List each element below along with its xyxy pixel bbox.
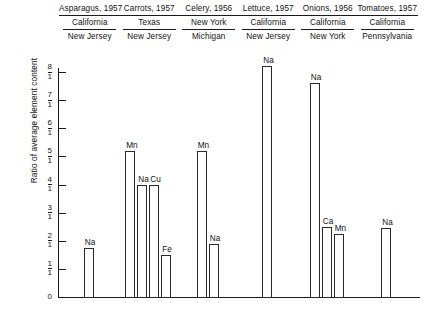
- group-header: Asparagus, 1957CaliforniaNew Jersey: [59, 4, 121, 42]
- y-tick-mark: [59, 269, 66, 270]
- figure-bar-chart: Asparagus, 1957CaliforniaNew JerseyCarro…: [0, 0, 424, 314]
- y-tick-mark: [59, 213, 66, 214]
- bar-label: Na: [382, 218, 392, 227]
- group-title: Lettuce, 1957: [238, 4, 300, 16]
- group-numerator: California: [361, 18, 414, 30]
- bar-label: Na: [85, 238, 95, 247]
- bar: [322, 227, 332, 298]
- group-numerator: California: [242, 18, 295, 30]
- group-title: Celery, 1956: [178, 4, 240, 16]
- bar: [149, 185, 159, 299]
- group-denominator: Michigan: [178, 32, 240, 42]
- bar-label: Mn: [198, 141, 209, 150]
- bar: [209, 244, 219, 298]
- y-tick-label: 71: [0, 91, 52, 109]
- bar: [381, 228, 391, 298]
- group-numerator: New York: [182, 18, 235, 30]
- y-tick-fraction: 11: [48, 260, 52, 278]
- bar: [197, 151, 207, 298]
- bar-label: Cu: [150, 175, 160, 184]
- y-tick-fraction: 61: [48, 119, 52, 137]
- bar: [161, 255, 171, 298]
- group-denominator: New Jersey: [59, 32, 121, 42]
- y-tick-fraction: 71: [48, 91, 52, 109]
- bar: [334, 234, 344, 298]
- group-title: Onions, 1956: [297, 4, 359, 16]
- y-tick-fraction: 51: [48, 147, 52, 165]
- y-tick-label: 81: [0, 63, 52, 81]
- y-axis-line: [58, 68, 59, 298]
- group-title: Tomatoes, 1957: [357, 4, 419, 16]
- bar-label: Na: [311, 73, 321, 82]
- y-tick-fraction: 81: [48, 63, 52, 81]
- bar-label: Fe: [162, 245, 172, 254]
- y-tick-label: 41: [0, 176, 52, 194]
- group-header: Lettuce, 1957CaliforniaNew Jersey: [238, 4, 300, 42]
- group-title: Asparagus, 1957: [59, 4, 121, 16]
- bar-label: Na: [263, 56, 273, 65]
- group-numerator: California: [301, 18, 354, 30]
- y-tick-mark: [59, 185, 66, 186]
- y-tick-fraction: 41: [48, 176, 52, 194]
- group-header: Tomatoes, 1957CaliforniaPennsylvania: [357, 4, 419, 42]
- bar: [310, 83, 320, 298]
- group-denominator: New Jersey: [119, 32, 181, 42]
- y-tick-label: 31: [0, 204, 52, 222]
- group-title: Carrots, 1957: [119, 4, 181, 16]
- group-numerator: Texas: [123, 18, 176, 30]
- y-tick-mark: [59, 156, 66, 157]
- bar-label: Na: [138, 175, 148, 184]
- group-header-row: Asparagus, 1957CaliforniaNew JerseyCarro…: [0, 0, 424, 52]
- group-denominator: New Jersey: [238, 32, 300, 42]
- group-header: Celery, 1956New YorkMichigan: [178, 4, 240, 42]
- y-tick-label: 0: [0, 293, 52, 301]
- y-tick-label: 21: [0, 232, 52, 250]
- bar: [262, 66, 272, 298]
- bar: [84, 248, 94, 298]
- bar: [137, 185, 147, 299]
- y-tick-mark: [59, 100, 66, 101]
- bar: [125, 151, 135, 298]
- group-numerator: California: [63, 18, 116, 30]
- y-tick-fraction: 31: [48, 204, 52, 222]
- y-tick-mark: [59, 72, 66, 73]
- group-denominator: New York: [297, 32, 359, 42]
- y-tick-mark: [59, 241, 66, 242]
- y-tick-label: 51: [0, 147, 52, 165]
- y-tick-label: 61: [0, 119, 52, 137]
- x-axis-baseline: [58, 297, 420, 298]
- y-tick-mark: [59, 128, 66, 129]
- y-tick-fraction: 21: [48, 232, 52, 250]
- group-header: Carrots, 1957TexasNew Jersey: [119, 4, 181, 42]
- bar-label: Ca: [323, 217, 333, 226]
- bar-label: Na: [210, 234, 220, 243]
- bar-label: Mn: [335, 224, 346, 233]
- bar-label: Mn: [126, 141, 137, 150]
- group-header: Onions, 1956CaliforniaNew York: [297, 4, 359, 42]
- y-tick-label: 11: [0, 260, 52, 278]
- group-denominator: Pennsylvania: [357, 32, 419, 42]
